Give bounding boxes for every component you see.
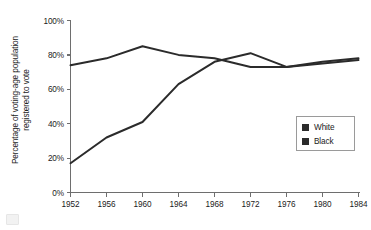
chart-figure: Percentage of voting-age population regi… (0, 0, 371, 230)
legend-swatch-white (302, 124, 309, 131)
legend-item-white: White (302, 120, 354, 134)
legend-label-white: White (314, 123, 334, 132)
legend-item-black: Black (302, 134, 354, 148)
plot-area (0, 0, 371, 230)
axes (71, 20, 360, 193)
chart-legend: White Black (296, 116, 355, 151)
corner-artifact (6, 214, 19, 225)
legend-swatch-black (302, 138, 309, 145)
legend-label-black: Black (314, 137, 334, 146)
